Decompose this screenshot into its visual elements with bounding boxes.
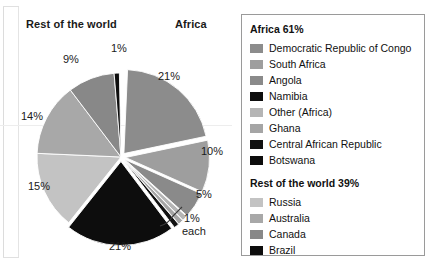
legend-swatch-icon <box>250 214 263 223</box>
scan-edge-left <box>3 6 4 258</box>
legend-group-title-africa: Africa 61% <box>250 23 424 36</box>
legend-content: Africa 61% Democratic Republic of CongoS… <box>242 15 424 258</box>
legend-item[interactable]: Russia <box>250 194 424 210</box>
pie-slice-value-label: 9% <box>63 53 79 65</box>
pie-slice-value-label: 14% <box>21 110 43 122</box>
legend-swatch-icon <box>250 230 263 239</box>
legend-item[interactable]: Ghana <box>250 120 424 136</box>
legend-item-label: Botswana <box>269 152 315 168</box>
scan-edge-top <box>3 6 19 7</box>
pie-chart: 21%10%5%21%15%14%9%1% 1% each <box>8 30 236 260</box>
legend-swatch-icon <box>250 108 263 117</box>
legend-item-label: Ghana <box>269 120 301 136</box>
legend-swatch-icon <box>250 198 263 207</box>
pie-slice-value-label: 21% <box>109 240 131 252</box>
legend-swatch-icon <box>250 124 263 133</box>
pie-slice-value-label: 1% <box>111 42 127 54</box>
pie-slice-value-label: 10% <box>201 145 223 157</box>
pie-slice-value-label: 15% <box>28 180 50 192</box>
chart-header-africa: Africa <box>175 18 207 30</box>
legend-item-label: Australia <box>269 210 310 226</box>
legend-swatch-icon <box>250 60 263 69</box>
callout-label-line2: each <box>182 225 206 237</box>
legend-group-africa: Democratic Republic of CongoSouth Africa… <box>250 40 424 168</box>
legend-item-label: Canada <box>269 226 306 242</box>
legend-item[interactable]: Brazil <box>250 242 424 258</box>
callout-label-line1: 1% <box>184 212 200 224</box>
pie-chart-figure: Rest of the world Africa 21%10%5%21%15%1… <box>0 0 440 270</box>
legend-item[interactable]: Other (Africa) <box>250 104 424 120</box>
pie-slice-value-label: 5% <box>196 188 212 200</box>
pie-slice[interactable] <box>124 70 206 154</box>
legend-item[interactable]: Australia <box>250 210 424 226</box>
legend-swatch-icon <box>250 76 263 85</box>
pie-slice-value-label: 21% <box>158 70 180 82</box>
legend-item[interactable]: Canada <box>250 226 424 242</box>
legend-item-label: Central African Republic <box>269 136 382 152</box>
legend-group-title-rest-of-world: Rest of the world 39% <box>250 177 424 190</box>
legend-item-label: Russia <box>269 194 301 210</box>
legend-item-label: Other (Africa) <box>269 104 332 120</box>
legend-item[interactable]: Democratic Republic of Congo <box>250 40 424 56</box>
legend-item[interactable]: Botswana <box>250 152 424 168</box>
legend-swatch-icon <box>250 246 263 255</box>
legend-group-rest-of-world: RussiaAustraliaCanadaBrazil <box>250 194 424 258</box>
legend-item-label: Brazil <box>269 242 295 258</box>
legend-item-label: Democratic Republic of Congo <box>269 40 411 56</box>
chart-header-rest-of-world: Rest of the world <box>26 18 117 30</box>
legend-swatch-icon <box>250 92 263 101</box>
legend: Africa 61% Democratic Republic of CongoS… <box>241 14 425 256</box>
legend-item-label: Angola <box>269 72 302 88</box>
legend-item-label: Namibia <box>269 88 308 104</box>
legend-item[interactable]: Namibia <box>250 88 424 104</box>
legend-swatch-icon <box>250 156 263 165</box>
legend-item[interactable]: Angola <box>250 72 424 88</box>
pie-chart-svg: 21%10%5%21%15%14%9%1% 1% each <box>8 30 236 260</box>
legend-item[interactable]: Central African Republic <box>250 136 424 152</box>
legend-swatch-icon <box>250 44 263 53</box>
legend-swatch-icon <box>250 140 263 149</box>
legend-item-label: South Africa <box>269 56 326 72</box>
legend-item[interactable]: South Africa <box>250 56 424 72</box>
